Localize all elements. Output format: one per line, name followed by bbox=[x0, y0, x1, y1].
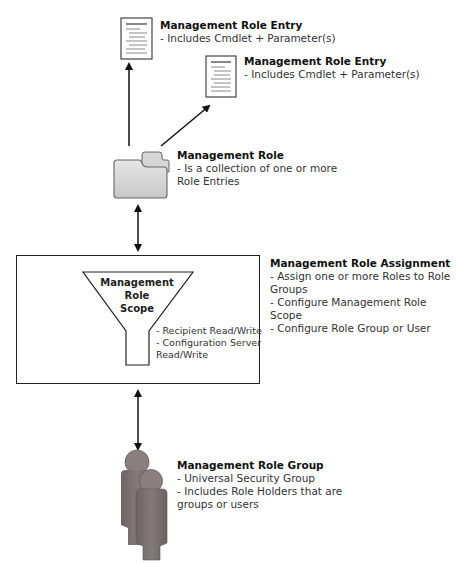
role-scope-notes: - Recipient Read/Write - Configuration S… bbox=[156, 325, 262, 361]
scope-note: Read/Write bbox=[156, 349, 262, 361]
role-assignment-line: - Assign one or more Roles to Role bbox=[270, 270, 456, 283]
role-assignment-label: Management Role Assignment - Assign one … bbox=[270, 257, 456, 335]
role-scope-title-line1: Management Role bbox=[92, 276, 182, 302]
role-line: - Is a collection of one or more bbox=[177, 162, 337, 175]
role-line: Role Entries bbox=[177, 175, 337, 188]
role-group-label: Management Role Group - Universal Securi… bbox=[177, 459, 342, 511]
scope-note: - Recipient Read/Write bbox=[156, 325, 262, 337]
scope-note: - Configuration Server bbox=[156, 337, 262, 349]
role-assignment-line: Groups bbox=[270, 283, 456, 296]
role-group-line: - Includes Role Holders that are bbox=[177, 485, 342, 498]
role-scope-title-line2: Scope bbox=[92, 302, 182, 315]
role-entry-2-line: - Includes Cmdlet + Parameter(s) bbox=[244, 68, 420, 81]
role-assignment-line: - Configure Management Role Scope bbox=[270, 296, 456, 322]
role-entry-1-title: Management Role Entry bbox=[160, 19, 336, 32]
role-entry-2-label: Management Role Entry - Includes Cmdlet … bbox=[244, 55, 420, 81]
role-entry-1-line: - Includes Cmdlet + Parameter(s) bbox=[160, 32, 336, 45]
role-group-line: - Universal Security Group bbox=[177, 472, 342, 485]
role-entry-2-title: Management Role Entry bbox=[244, 55, 420, 68]
role-group-title: Management Role Group bbox=[177, 459, 342, 472]
role-label: Management Role - Is a collection of one… bbox=[177, 149, 337, 188]
role-title: Management Role bbox=[177, 149, 337, 162]
role-entry-1-label: Management Role Entry - Includes Cmdlet … bbox=[160, 19, 336, 45]
role-group-line: groups or users bbox=[177, 498, 342, 511]
role-assignment-line: - Configure Role Group or User bbox=[270, 322, 456, 335]
role-scope-title: Management Role Scope bbox=[92, 276, 182, 315]
role-assignment-title: Management Role Assignment bbox=[270, 257, 456, 270]
